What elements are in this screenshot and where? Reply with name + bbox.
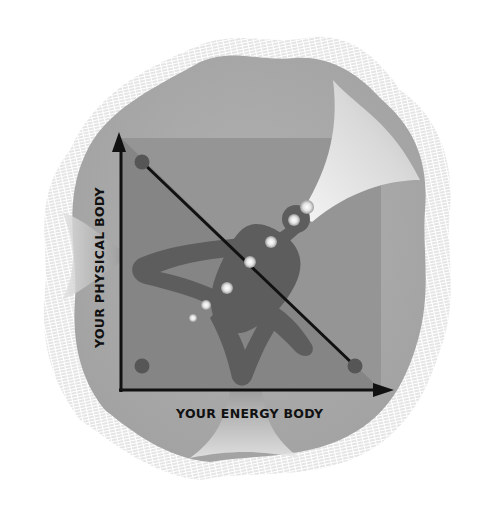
bottom-left-dot	[135, 359, 150, 374]
diagram-canvas: YOUR PHYSICAL BODY YOUR ENERGY BODY	[0, 0, 493, 519]
y-axis-label: YOUR PHYSICAL BODY	[92, 186, 107, 349]
bottom-right-dot	[348, 359, 363, 374]
x-axis-label: YOUR ENERGY BODY	[175, 406, 324, 421]
top-left-dot	[135, 155, 150, 170]
